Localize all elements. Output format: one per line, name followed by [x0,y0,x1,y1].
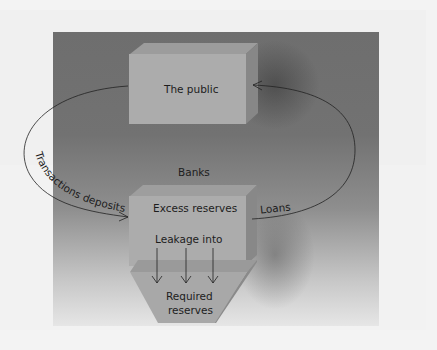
banks-label: Banks [178,166,210,178]
public-label: The public [164,83,218,95]
required-label-line1: Required [166,290,213,302]
required-label-line2: reserves [168,304,213,316]
transactions-deposits-label: Transactions deposits [33,149,127,214]
diagram-shapes: Transactions deposits [0,0,437,350]
leakage-label: Leakage into [155,233,222,245]
loans-arrow [252,81,355,219]
excess-reserves-label: Excess reserves [153,202,237,214]
banks-box [129,185,257,266]
